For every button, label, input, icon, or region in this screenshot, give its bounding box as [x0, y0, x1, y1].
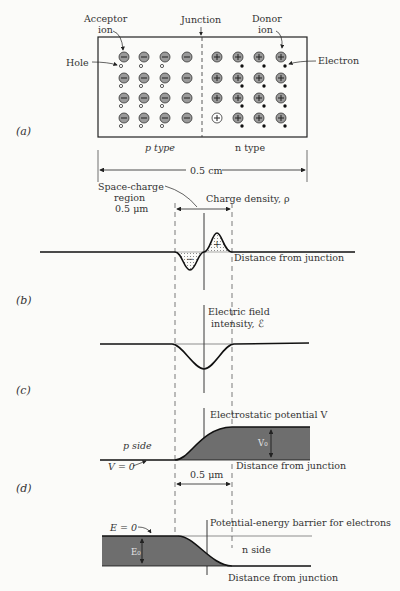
part-c-label: (c)	[16, 384, 31, 397]
hole-pointer-icon	[92, 62, 117, 65]
donor-pointer-icon	[276, 31, 282, 48]
p-side-label: p side	[123, 440, 152, 451]
v-zero-label: V = 0	[108, 461, 135, 472]
width-cm-label: 0.5 cm	[190, 165, 222, 176]
charge-density-label: Charge density, ρ	[206, 193, 290, 204]
donor-label: Donor	[252, 13, 282, 24]
e-zero-label: E = 0	[109, 522, 137, 533]
v0-label: V₀	[257, 438, 268, 448]
space-charge-label: Space-charge	[98, 181, 164, 192]
minus-signs	[121, 57, 190, 118]
energy-shaded-area	[102, 536, 232, 566]
donor-ions	[212, 52, 286, 123]
panel-b-charge-density: Space-charge region 0.5 μm Charge densit…	[40, 181, 355, 290]
space-charge-width: 0.5 μm	[115, 203, 148, 214]
part-d-label: (d)	[16, 482, 32, 495]
part-a-label: (a)	[16, 125, 31, 138]
acceptor-ions	[119, 52, 192, 123]
potential-shaded-area	[175, 427, 310, 460]
plus-sign: +	[213, 238, 221, 249]
n-side-label: n side	[242, 544, 271, 555]
panel-c-electric-field: Electric field intensity, ℰ	[100, 305, 309, 393]
part-b-label: (b)	[16, 294, 32, 307]
donor-label-2: ion	[258, 24, 273, 35]
junction-label: Junction	[180, 14, 221, 25]
n-type-label: n type	[235, 142, 265, 153]
panel-a-crystal: Acceptor ion Junction Donor ion Hole Ele…	[66, 13, 359, 182]
minus-sign: −	[186, 253, 194, 264]
acceptor-pointer-icon	[113, 31, 123, 50]
electric-field-curve	[100, 343, 309, 369]
width-um-label: 0.5 μm	[190, 469, 223, 480]
hole-label: Hole	[66, 57, 89, 68]
field-label: Electric field	[208, 306, 270, 317]
distance-label-e: Distance from junction	[228, 572, 338, 583]
distance-label-d: Distance from junction	[236, 460, 346, 471]
potential-label: Electrostatic potential V	[210, 409, 327, 420]
electron-label: Electron	[318, 55, 359, 66]
distance-label-b: Distance from junction	[234, 252, 344, 263]
electron-pointer-icon	[289, 61, 316, 64]
panel-energy-barrier: Potential-energy barrier for electrons E…	[102, 517, 391, 583]
acceptor-label: Acceptor	[83, 13, 128, 24]
e0-label: E₀	[131, 547, 141, 557]
panel-d-potential: Electrostatic potential V V₀ p side V = …	[100, 408, 346, 484]
acceptor-label-2: ion	[98, 24, 113, 35]
plus-signs	[214, 54, 284, 121]
field-label-2: intensity, ℰ	[211, 318, 264, 329]
barrier-label: Potential-energy barrier for electrons	[210, 517, 391, 528]
p-type-label: p type	[145, 142, 175, 153]
pn-junction-diagram: Acceptor ion Junction Donor ion Hole Ele…	[0, 0, 400, 591]
crystal-box	[98, 37, 307, 137]
space-charge-label-2: region	[114, 192, 145, 203]
